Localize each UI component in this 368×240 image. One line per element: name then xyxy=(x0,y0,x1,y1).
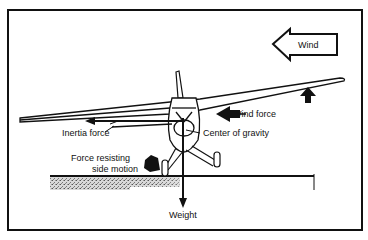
center-of-gravity-label: Center of gravity xyxy=(203,128,269,138)
airplane-crosswind-diagram xyxy=(0,0,368,240)
force-resisting-label-line1: Force resisting xyxy=(71,153,130,163)
wind-force-label: Wind force xyxy=(233,109,276,119)
side-resist-arrow xyxy=(144,155,160,172)
tail-fin xyxy=(176,71,183,98)
force-resisting-label-line2: side motion xyxy=(92,164,138,174)
wind-label: Wind xyxy=(298,40,319,50)
landing-gear xyxy=(162,146,220,176)
inertia-force-label: Inertia force xyxy=(62,128,110,138)
weight-label: Weight xyxy=(169,210,197,220)
